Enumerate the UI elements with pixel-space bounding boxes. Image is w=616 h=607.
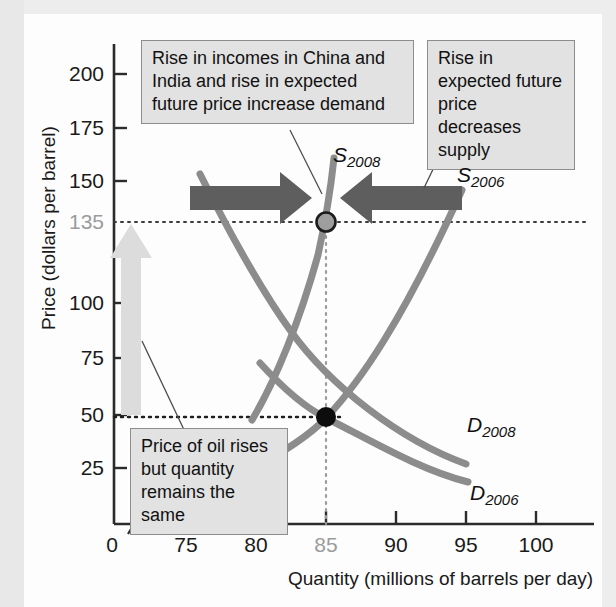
supply-curve-2006-label: S2006 <box>457 163 504 190</box>
x-tick-label-100: 100 <box>506 533 566 557</box>
demand-curve-2008-label: D2008 <box>467 413 516 440</box>
x-tick-label-75: 75 <box>156 533 216 557</box>
demand-2006-sub: 2006 <box>485 491 518 508</box>
supply-2008-sub: 2008 <box>347 153 380 170</box>
x-tick-label-90: 90 <box>366 533 426 557</box>
y-tick-label-75: 75 <box>44 346 104 370</box>
y-tick-label-135: 135 <box>44 210 104 234</box>
demand-2008-sub: 2008 <box>482 423 515 440</box>
supply-2006-sub: 2006 <box>471 173 504 190</box>
supply-curve-2008-label: S2008 <box>333 143 380 170</box>
price-rise-arrow <box>110 224 152 415</box>
demand-2008-base: D <box>467 413 482 436</box>
demand-callout: Rise in incomes in China and India and r… <box>141 40 414 124</box>
demand-2006-base: D <box>470 481 485 504</box>
demand-curve-2006 <box>260 363 468 482</box>
y-tick-label-200: 200 <box>44 62 104 86</box>
x-tick-label-80: 80 <box>226 533 286 557</box>
supply-2006-base: S <box>457 163 471 186</box>
figure-canvas: Price (dollars per barrel) Quantity (mil… <box>0 0 616 607</box>
y-tick-label-50: 50 <box>44 403 104 427</box>
demand-curve-2006-label: D2006 <box>470 481 519 508</box>
x-tick-label-85: 85 <box>296 533 356 557</box>
equilibrium-point-2008 <box>317 213 336 232</box>
result-callout-leader <box>142 341 186 434</box>
equilibrium-point-2006 <box>316 407 336 427</box>
supply-callout: Rise in expected future price decreases … <box>427 40 575 170</box>
x-tick-label-0: 0 <box>82 533 142 557</box>
x-tick-label-95: 95 <box>436 533 496 557</box>
y-tick-label-150: 150 <box>44 169 104 193</box>
demand-shift-arrow <box>190 172 312 224</box>
y-tick-label-175: 175 <box>44 116 104 140</box>
x-axis-title: Quantity (millions of barrels per day) <box>288 568 593 590</box>
supply-2008-base: S <box>333 143 347 166</box>
supply-shift-arrow <box>340 172 462 224</box>
y-tick-label-25: 25 <box>44 456 104 480</box>
y-tick-label-100: 100 <box>44 291 104 315</box>
result-callout: Price of oil rises but quantity remains … <box>130 428 288 535</box>
